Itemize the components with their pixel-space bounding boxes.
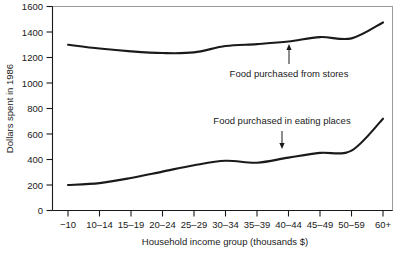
x-tick-label-0: −10 — [60, 219, 76, 230]
annotation-upper-label: Food purchased from stores — [230, 68, 349, 79]
y-tick-label-1000: 1000 — [22, 78, 43, 89]
y-tick-label-1400: 1400 — [22, 27, 43, 38]
y-tick-label-200: 200 — [27, 180, 43, 191]
y-axis-title: Dollars spent in 1986 — [4, 64, 15, 153]
x-tick-label-1: 10–14 — [86, 219, 112, 230]
x-tick-label-6: 35–39 — [244, 219, 270, 230]
annotation-lower-label: Food purchased in eating places — [213, 115, 351, 126]
y-tick-label-400: 400 — [27, 154, 43, 165]
y-tick-label-1600: 1600 — [22, 1, 43, 12]
x-tick-label-3: 20–24 — [149, 219, 175, 230]
y-tick-label-1200: 1200 — [22, 52, 43, 63]
line-chart: 1600 1400 1200 1000 800 600 400 200 0 Do… — [0, 0, 405, 253]
x-axis-title: Household income group (thousands $) — [142, 236, 308, 247]
x-tick-label-9: 50–59 — [338, 219, 364, 230]
y-tick-label-600: 600 — [27, 129, 43, 140]
chart-background — [0, 0, 405, 253]
x-tick-label-2: 15–19 — [118, 219, 144, 230]
x-tick-label-4: 25–29 — [181, 219, 207, 230]
x-tick-label-8: 45–49 — [307, 219, 333, 230]
y-tick-label-800: 800 — [27, 103, 43, 114]
x-tick-label-5: 30–34 — [212, 219, 238, 230]
x-tick-label-7: 40–44 — [275, 219, 301, 230]
y-tick-label-0: 0 — [38, 205, 43, 216]
chart-container: 1600 1400 1200 1000 800 600 400 200 0 Do… — [0, 0, 405, 253]
x-tick-label-10: 60+ — [375, 219, 392, 230]
